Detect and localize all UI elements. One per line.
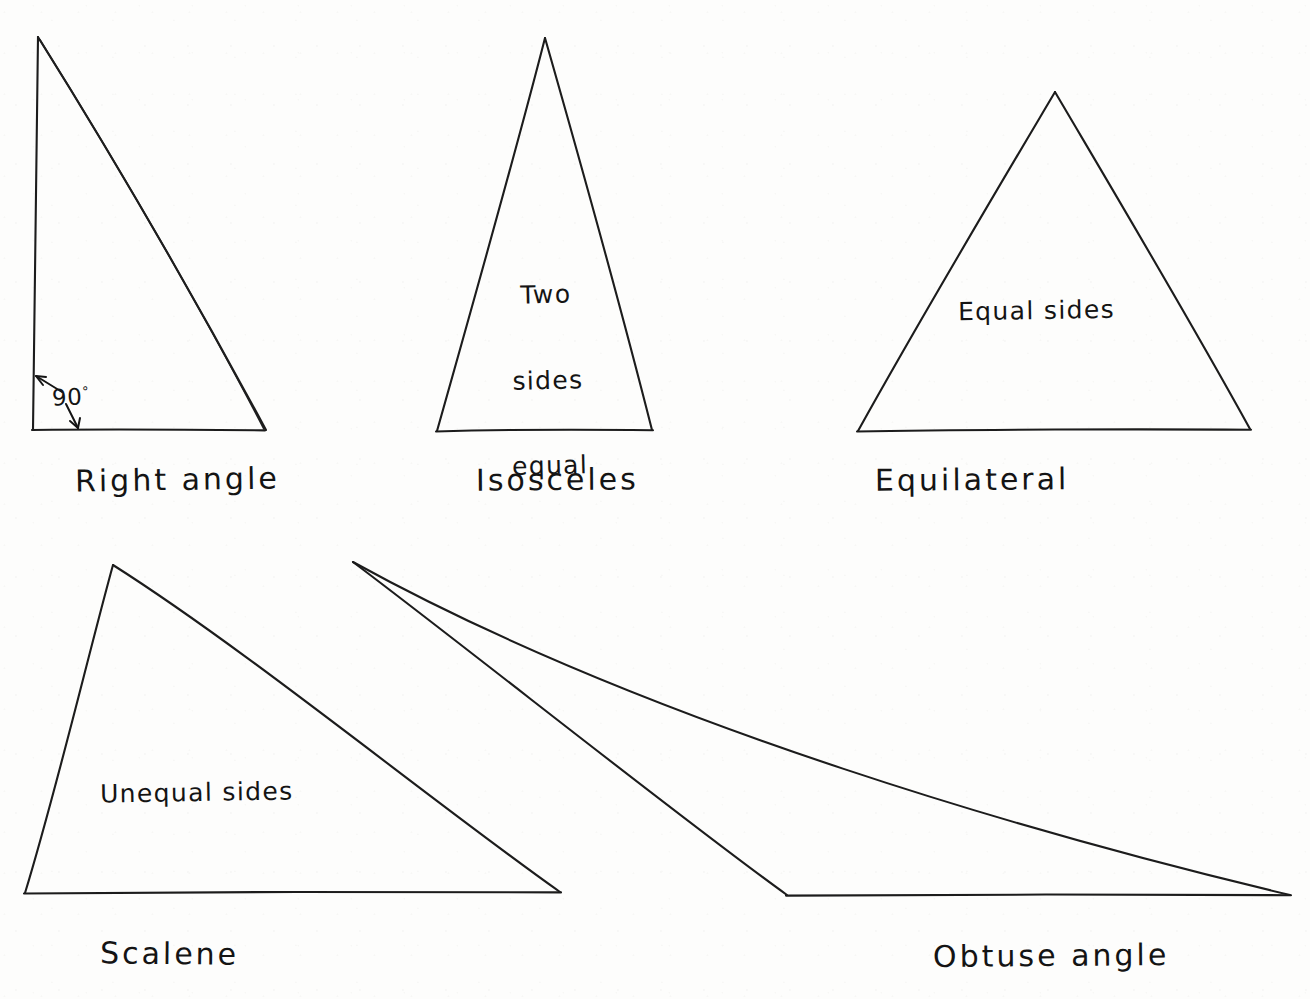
- obtuse-long-side: [353, 562, 1290, 895]
- caption-obtuse-angle: Obtuse angle: [933, 937, 1170, 974]
- obtuse-angle-triangle-shape: [0, 0, 1310, 999]
- diagram-sheet: 90° Right angle Two sides equal Isoscele…: [0, 0, 1310, 999]
- obtuse-base: [786, 895, 1291, 896]
- drawing-board: 90° Right angle Two sides equal Isoscele…: [0, 0, 1310, 999]
- obtuse-short-side: [353, 562, 787, 895]
